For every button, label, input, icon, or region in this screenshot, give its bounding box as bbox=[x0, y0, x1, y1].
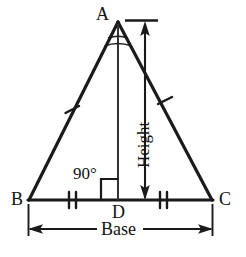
vertex-label-a: A bbox=[96, 5, 109, 23]
base-dimension-label: Base bbox=[101, 220, 136, 238]
right-angle-square bbox=[101, 179, 118, 200]
vertex-label-c: C bbox=[219, 190, 231, 208]
vertex-label-b: B bbox=[11, 190, 23, 208]
right-angle-label: 90° bbox=[73, 165, 97, 182]
triangle-side-ac bbox=[118, 22, 212, 200]
height-dimension-label: Height bbox=[135, 122, 152, 168]
geometry-figure: A B C D 90° Height Base bbox=[0, 0, 246, 257]
